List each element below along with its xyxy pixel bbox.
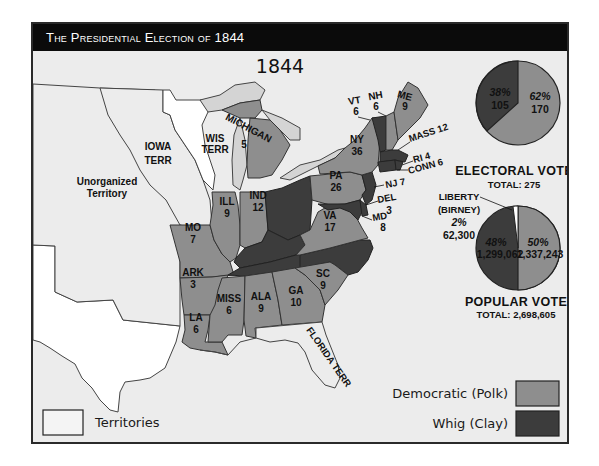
label-sc: SC (316, 268, 330, 279)
map-title: The Presidential Election of 1844 (33, 24, 567, 51)
electoral-whig-value: 105 (491, 99, 509, 111)
label-ill-votes: 9 (224, 208, 230, 219)
label-miss: MISS (217, 293, 242, 304)
electoral-vote-pie: 38% 105 62% 170 (476, 61, 560, 145)
legend-swatch-territories (43, 410, 83, 435)
label-la-votes: 6 (193, 324, 199, 335)
label-me-votes: 9 (402, 101, 408, 112)
label-sc-votes: 9 (320, 280, 326, 291)
label-del-votes: 3 (386, 205, 392, 216)
electoral-whig-percent: 38% (489, 86, 511, 98)
label-ny: NY (350, 134, 364, 145)
label-la: LA (189, 312, 202, 323)
label-unorganized-1: Unorganized (77, 176, 138, 187)
liberty-value: 62,300 (443, 229, 475, 241)
label-mo: MO (185, 222, 201, 233)
label-nh-votes: 6 (373, 101, 379, 112)
popular-dem-value: 1,337,243 (517, 248, 564, 260)
label-ny-votes: 36 (351, 146, 363, 157)
label-va-votes: 17 (324, 222, 336, 233)
label-va: VA (323, 210, 336, 221)
label-michigan-votes: 5 (241, 139, 247, 150)
popular-whig-percent: 48% (484, 236, 507, 248)
map-frame: The Presidential Election of 1844 (31, 22, 569, 444)
legend-label-whig: Whig (Clay) (432, 416, 508, 431)
legend-label-territories: Territories (94, 415, 160, 430)
liberty-label-2: (BIRNEY) (438, 204, 480, 215)
popular-vote-total: TOTAL: 2,698,605 (477, 309, 557, 320)
popular-dem-percent: 50% (527, 236, 549, 248)
label-wis-1: WIS (206, 133, 225, 144)
popular-vote-title: POPULAR VOTE (465, 295, 567, 309)
label-unorganized-2: Territory (87, 188, 128, 199)
label-ga: GA (289, 285, 304, 296)
label-wis-2: TERR (201, 144, 229, 155)
liberty-label-1: LIBERTY (439, 191, 480, 202)
electoral-dem-percent: 62% (529, 90, 551, 102)
electoral-vote-total: TOTAL: 275 (488, 179, 541, 190)
label-ind: IND (249, 190, 266, 201)
legend-swatch-whig (516, 411, 559, 436)
label-ark: ARK (182, 267, 204, 278)
electoral-vote-title: ELECTORAL VOTE (455, 164, 567, 178)
label-ala: ALA (251, 291, 272, 302)
label-pa-votes: 26 (330, 182, 342, 193)
legend-swatch-democratic (516, 381, 559, 406)
label-mo-votes: 7 (190, 234, 196, 245)
label-md-votes: 8 (380, 222, 386, 233)
state-conn (378, 160, 396, 172)
label-iowa-2: TERR (144, 155, 172, 166)
label-iowa-1: IOWA (145, 141, 172, 152)
label-ind-votes: 12 (252, 202, 264, 213)
label-ga-votes: 10 (290, 297, 302, 308)
election-map: 1844 Unorganized Territory IOWA TERR WIS… (33, 51, 567, 442)
label-vt-votes: 6 (353, 106, 359, 117)
label-ala-votes: 9 (258, 303, 264, 314)
year-label: 1844 (256, 55, 304, 77)
label-pa: PA (329, 170, 342, 181)
label-ill: ILL (220, 196, 235, 207)
electoral-dem-value: 170 (531, 103, 549, 115)
legend-label-democratic: Democratic (Polk) (392, 386, 508, 401)
label-miss-votes: 6 (226, 305, 232, 316)
liberty-percent: 2% (450, 216, 467, 228)
label-ark-votes: 3 (190, 279, 196, 290)
